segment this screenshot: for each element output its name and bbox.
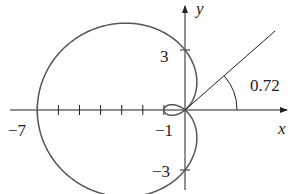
angle-ray bbox=[185, 31, 275, 110]
limacon-curve bbox=[37, 23, 197, 194]
tick-label-3: 3 bbox=[160, 47, 169, 66]
tick-label-neg1: −1 bbox=[155, 121, 173, 140]
y-axis-label: y bbox=[194, 0, 204, 18]
polar-plot: y x 3 −3 −1 −7 0.72 bbox=[0, 0, 301, 194]
tick-label-neg3: −3 bbox=[152, 162, 170, 181]
tick-label-neg7: −7 bbox=[8, 121, 27, 140]
angle-label: 0.72 bbox=[250, 76, 280, 95]
x-axis-label: x bbox=[277, 119, 286, 138]
angle-arc bbox=[224, 76, 237, 110]
